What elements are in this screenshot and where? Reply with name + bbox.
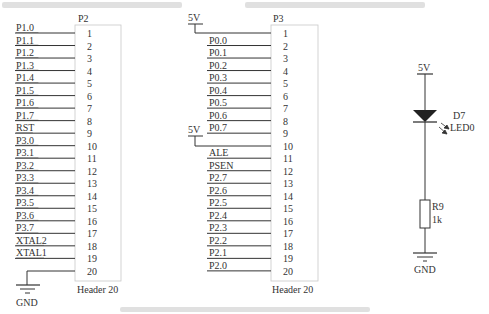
p3-pin-number: 4 <box>283 66 288 77</box>
schematic: P2 Header 20 1P1.02P1.13P1.24P1.35P1.46P… <box>0 0 489 314</box>
p3-net-label: P2.0 <box>209 260 227 271</box>
p3-pin-number: 5 <box>283 78 288 89</box>
p3-pin-number: 11 <box>283 153 293 164</box>
p2-net-label: P1.5 <box>16 85 34 96</box>
p2-net-label: P1.2 <box>16 47 34 58</box>
p2-pin-number: 17 <box>87 228 97 239</box>
p3-vcc-label-10: 5V <box>188 124 201 135</box>
p3-pin-number: 8 <box>283 116 288 127</box>
p2-net-label: P3.0 <box>16 135 34 146</box>
resistor-value: 1k <box>432 214 442 225</box>
p3-pin-number: 9 <box>283 128 288 139</box>
p2-net-label: RST <box>16 122 34 133</box>
p3-net-label: P0.5 <box>209 97 227 108</box>
p2-pin-number: 4 <box>87 66 92 77</box>
p3-net-label: ALE <box>209 147 228 158</box>
connector-p2-body <box>75 25 121 281</box>
p3-pin-number: 17 <box>283 228 293 239</box>
p2-pin-number: 11 <box>87 153 97 164</box>
led-ground-icon <box>413 253 437 261</box>
p2-pin-number: 9 <box>87 128 92 139</box>
p3-net-label: P0.6 <box>209 110 227 121</box>
p3-pin-number: 10 <box>283 141 293 152</box>
led-light-arrows-icon <box>439 123 449 134</box>
p2-net-label: P3.3 <box>16 172 34 183</box>
p2-pin-number: 3 <box>87 53 92 64</box>
p2-gnd-label: GND <box>16 297 38 308</box>
connector-p2: P2 Header 20 1P1.02P1.13P1.24P1.35P1.46P… <box>15 13 121 308</box>
p3-net-label: P2.1 <box>209 247 227 258</box>
p2-pin-number: 8 <box>87 116 92 127</box>
p2-net-label: XTAL2 <box>16 235 47 246</box>
led-ref: D7 <box>453 110 465 121</box>
connector-p2-ref: P2 <box>78 13 89 24</box>
p3-pin-number: 1 <box>283 28 288 39</box>
p2-pin-number: 7 <box>87 103 92 114</box>
p3-pin-number: 12 <box>283 166 293 177</box>
connector-p3-footprint: Header 20 <box>272 284 313 295</box>
p2-net-label: P1.3 <box>16 60 34 71</box>
p3-pin-number: 13 <box>283 178 293 189</box>
resistor-ref: R9 <box>432 201 444 212</box>
p3-net-label: P2.2 <box>209 235 227 246</box>
p2-pin-number: 10 <box>87 141 97 152</box>
led-circuit: 5V D7 LED0 R9 1k GND <box>413 62 474 275</box>
p2-net-label: P3.1 <box>16 147 34 158</box>
p3-vcc-label-1: 5V <box>188 12 201 23</box>
led-value: LED0 <box>450 122 474 133</box>
p2-ground-symbol: GND <box>16 271 75 308</box>
p3-net-label: P2.7 <box>209 172 227 183</box>
connector-p3: P3 Header 20 12P0.03P0.14P0.25P0.36P0.47… <box>188 12 318 295</box>
p2-pin-number: 14 <box>87 191 97 202</box>
p2-pin-number: 15 <box>87 203 97 214</box>
p3-pin-number: 2 <box>283 41 288 52</box>
p2-net-label: P3.5 <box>16 197 34 208</box>
led-ground-label: GND <box>414 264 436 275</box>
p3-net-label: PSEN <box>209 160 233 171</box>
p2-net-label: P3.4 <box>16 185 34 196</box>
p3-pin-number: 7 <box>283 103 288 114</box>
p2-net-label: P1.6 <box>16 97 34 108</box>
p3-net-label: P0.0 <box>209 35 227 46</box>
p3-pin-number: 15 <box>283 203 293 214</box>
p3-pin-number: 3 <box>283 53 288 64</box>
connector-p3-body <box>271 25 318 281</box>
p2-net-label: P1.7 <box>16 110 34 121</box>
p3-pin-number: 6 <box>283 91 288 102</box>
p2-pin-number: 2 <box>87 41 92 52</box>
p2-net-label: P3.2 <box>16 160 34 171</box>
p2-pin-number: 5 <box>87 78 92 89</box>
p3-net-label: P0.3 <box>209 72 227 83</box>
p3-vcc-symbol-pin1: 5V <box>188 12 271 33</box>
p3-pin-number: 14 <box>283 191 293 202</box>
p2-pin-number: 16 <box>87 216 97 227</box>
p3-net-label: P0.4 <box>209 85 227 96</box>
p3-net-label: P0.1 <box>209 47 227 58</box>
p2-pin-number: 12 <box>87 166 97 177</box>
p3-net-label: P2.4 <box>209 210 227 221</box>
p3-pin-number: 16 <box>283 216 293 227</box>
connector-p2-footprint: Header 20 <box>77 284 118 295</box>
p3-pin-number: 20 <box>283 266 293 277</box>
resistor-icon <box>420 200 430 228</box>
p2-pin-number: 19 <box>87 253 97 264</box>
p2-net-label: P3.6 <box>16 210 34 221</box>
p3-net-label: P2.3 <box>209 222 227 233</box>
p2-net-label: P1.4 <box>16 72 34 83</box>
connector-p3-ref: P3 <box>273 13 284 24</box>
p3-pin-number: 18 <box>283 241 293 252</box>
p2-net-label: P1.1 <box>16 35 34 46</box>
p3-net-label: P2.6 <box>209 185 227 196</box>
p3-vcc-symbol-pin10: 5V <box>188 124 271 146</box>
led-supply-label: 5V <box>418 62 431 73</box>
p3-net-label: P2.5 <box>209 197 227 208</box>
p2-pin-number: 18 <box>87 241 97 252</box>
p3-pin-number: 19 <box>283 253 293 264</box>
p2-pin-number: 20 <box>87 266 97 277</box>
p3-net-label: P0.2 <box>209 60 227 71</box>
p2-pin-number: 1 <box>87 28 92 39</box>
p2-net-label: P1.0 <box>16 22 34 33</box>
p2-pin-number: 13 <box>87 178 97 189</box>
led-diode-icon <box>413 110 437 122</box>
p2-pin-number: 6 <box>87 91 92 102</box>
